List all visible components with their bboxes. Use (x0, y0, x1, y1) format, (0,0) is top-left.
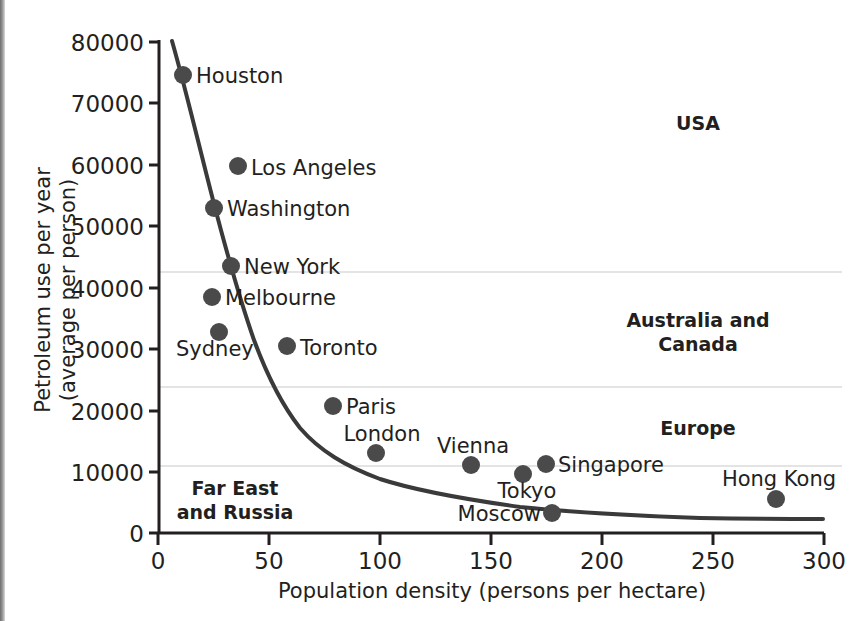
data-point-london (367, 444, 385, 462)
y-tick-label-10000: 10000 (71, 460, 144, 486)
point-label-vienna: Vienna (437, 434, 509, 458)
data-point-new-york (222, 257, 240, 275)
y-tick-label-50000: 50000 (71, 214, 144, 240)
y-tick-label-0: 0 (129, 521, 144, 547)
data-point-vienna (462, 456, 480, 474)
data-point-moscow (543, 504, 561, 522)
data-point-singapore (537, 455, 555, 473)
y-axis-title-line2: (average per person) (56, 179, 80, 402)
y-tick-label-20000: 20000 (71, 399, 144, 425)
data-point-melbourne (203, 288, 221, 306)
point-label-houston: Houston (196, 64, 283, 88)
data-point-houston (174, 66, 192, 84)
data-point-paris (324, 397, 342, 415)
region-label-usa: USA (676, 112, 720, 134)
point-label-los-angeles: Los Angeles (251, 156, 376, 180)
y-tick-label-70000: 70000 (71, 91, 144, 117)
x-axis-tick-labels: 0 50 100 150 200 250 300 (151, 548, 846, 574)
point-label-melbourne: Melbourne (225, 286, 336, 310)
x-axis-title: Population density (persons per hectare) (278, 579, 706, 603)
point-label-singapore: Singapore (558, 453, 664, 477)
point-label-toronto: Toronto (299, 336, 378, 360)
x-tick-label-150: 150 (469, 548, 513, 574)
x-tick-label-100: 100 (358, 548, 402, 574)
data-point-los-angeles (229, 157, 247, 175)
point-label-washington: Washington (227, 197, 350, 221)
region-label-europe: Europe (660, 417, 735, 439)
point-label-new-york: New York (244, 255, 341, 279)
y-axis-title-line1: Petroleum use per year (31, 167, 55, 413)
region-label-australia-canada-line0: Australia and (626, 309, 769, 331)
y-tick-label-30000: 30000 (71, 337, 144, 363)
region-label-far-east-line1: Far East (192, 477, 279, 499)
data-point-washington (205, 199, 223, 217)
x-tick-label-200: 200 (580, 548, 624, 574)
point-label-moscow: Moscow (458, 502, 541, 526)
region-label-australia-canada-line1: Canada (658, 333, 738, 355)
region-label-far-east-line2: and Russia (177, 501, 294, 523)
data-point-hong-kong (767, 490, 785, 508)
x-axis-ticks (158, 533, 824, 545)
x-tick-label-50: 50 (254, 548, 283, 574)
x-tick-label-300: 300 (802, 548, 846, 574)
x-tick-label-0: 0 (151, 548, 166, 574)
point-label-hong-kong: Hong Kong (722, 467, 836, 491)
x-tick-label-250: 250 (691, 548, 735, 574)
chart-page: 80000 70000 60000 50000 40000 30000 2000… (0, 0, 865, 621)
y-tick-label-60000: 60000 (71, 153, 144, 179)
point-label-tokyo: Tokyo (497, 479, 557, 503)
y-tick-label-40000: 40000 (71, 276, 144, 302)
scatter-chart: 80000 70000 60000 50000 40000 30000 2000… (0, 0, 865, 621)
y-axis-tick-labels: 80000 70000 60000 50000 40000 30000 2000… (71, 30, 144, 547)
y-tick-label-80000: 80000 (71, 30, 144, 56)
point-label-london: London (344, 422, 421, 446)
point-label-paris: Paris (346, 395, 396, 419)
data-point-labels: Houston Los Angeles Washington New York … (176, 64, 836, 526)
data-point-toronto (278, 337, 296, 355)
point-label-sydney: Sydney (176, 337, 254, 361)
